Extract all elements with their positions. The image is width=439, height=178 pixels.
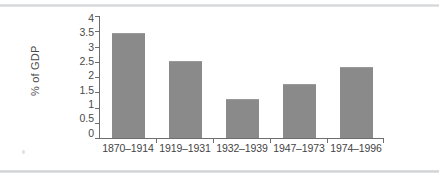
y-tick-label: 4 [88,13,94,23]
page-rule-bottom [0,170,439,173]
y-tick-label: 3 [88,42,94,52]
x-tick-label: 1919–1931 [159,142,211,154]
bar-1974-1996 [340,67,373,138]
x-axis-tick-labels: 1870–1914 1919–1931 1932–1939 1947–1973 … [95,142,395,158]
y-tick-label: 0 [88,128,94,138]
y-tick-label: 2 [88,70,94,80]
bar-1932-1939 [226,99,259,138]
page-rule-top [0,4,439,7]
y-tick-label: 1 [88,99,94,109]
x-tick-label: 1974–1996 [330,142,382,154]
y-axis-tick-labels: 4 3.5 3 2.5 2 1.5 1 0.5 0 [70,10,94,136]
bar-chart: % of GDP 4 3.5 3 2.5 2 1.5 1 0.5 0 [0,8,439,168]
y-tick-label: 1.5 [79,85,94,95]
bar-1919-1931 [169,61,202,138]
bar-series [99,16,384,139]
y-tick-label: 0.5 [79,113,94,123]
bar-1870-1914 [112,33,145,138]
x-tick-label: 1870–1914 [102,142,154,154]
x-tick-label: 1932–1939 [216,142,268,154]
bar-1947-1973 [283,84,316,138]
plot-area [99,16,384,139]
scan-speck [22,150,25,154]
y-tick-label: 3.5 [79,27,94,37]
x-tick-label: 1947–1973 [273,142,325,154]
y-tick-label: 2.5 [79,56,94,66]
